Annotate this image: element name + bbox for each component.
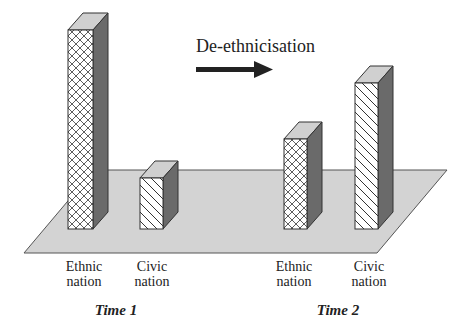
diagram-title: De-ethnicisation xyxy=(196,36,315,57)
label-ethnic-time1: Ethnicnation xyxy=(54,259,114,289)
group-label-time1: Time 1 xyxy=(76,302,156,319)
label-civic-time1: Civicnation xyxy=(122,259,182,289)
bar-civic-time1 xyxy=(140,161,178,229)
bar-ethnic-time2 xyxy=(284,122,322,229)
bar-ethnic-time1 xyxy=(68,13,108,229)
label-ethnic-time2: Ethnicnation xyxy=(264,259,324,289)
bar-civic-time2 xyxy=(355,66,393,229)
group-label-time2: Time 2 xyxy=(298,302,378,319)
right-arrow-icon xyxy=(196,61,273,78)
label-civic-time2: Civicnation xyxy=(339,259,399,289)
